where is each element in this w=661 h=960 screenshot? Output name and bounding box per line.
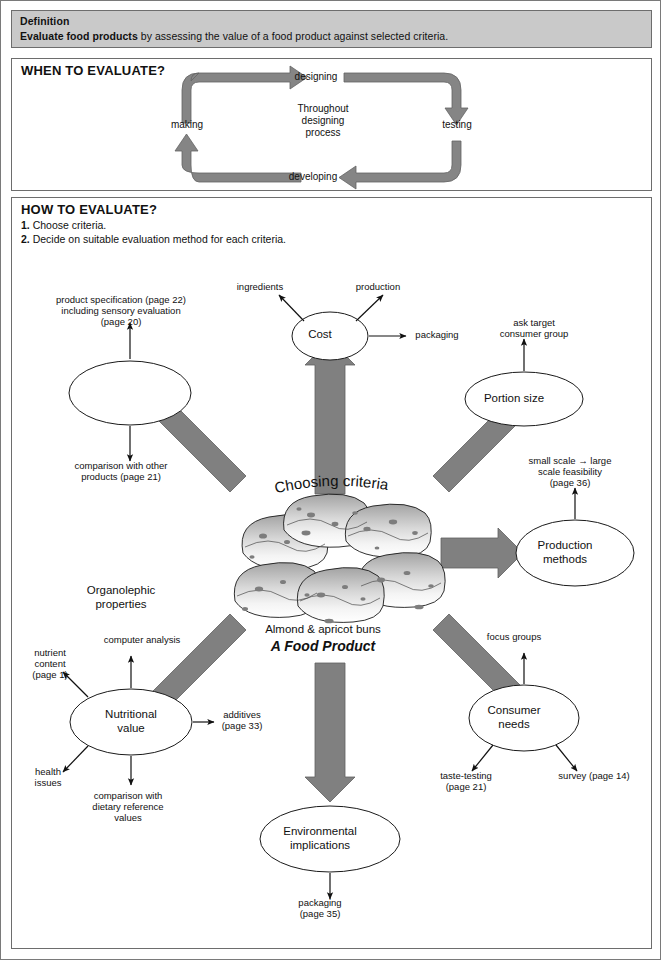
node-organolephic <box>69 361 191 425</box>
leaf-product-spec-line1: product specification (page 22) <box>56 294 186 305</box>
leaf-product-spec-line3: (page 20) <box>101 316 142 327</box>
leaf-computer-analysis: computer analysis <box>79 634 205 645</box>
leaf-line-taste-testing <box>472 745 493 771</box>
cycle-center-line-1: Throughout <box>278 103 368 115</box>
node-label-cost: Cost <box>280 328 360 342</box>
leaf-health-issues: health issues <box>20 766 76 788</box>
leaf-production-cost: production <box>337 281 419 292</box>
node-label-organolephic-line1: Organolephic <box>87 584 155 596</box>
leaf-dietary-line3: values <box>114 812 141 823</box>
food-product-illustration <box>234 494 445 623</box>
product-name-caption: Almond & apricot buns <box>235 622 411 636</box>
leaf-dietary-line1: comparison with <box>94 790 163 801</box>
leaf-comparison-line1: comparison with other <box>75 460 168 471</box>
bun-back-right <box>345 504 431 557</box>
leaf-ask-target-line1: ask target <box>513 317 555 328</box>
leaf-line-production-cost <box>356 295 383 321</box>
node-label-production-line2: methods <box>543 553 587 565</box>
leaf-survey: survey (page 14) <box>542 770 646 781</box>
leaf-ask-target-consumer-group: ask target consumer group <box>472 317 596 339</box>
leaf-taste-testing: taste-testing (page 21) <box>421 770 511 792</box>
node-label-organolephic: Organolephic properties <box>60 584 182 611</box>
leaf-product-specification: product specification (page 22) includin… <box>43 294 199 327</box>
leaf-ingredients: ingredients <box>217 281 303 292</box>
cycle-stage-developing: developing <box>273 171 353 183</box>
leaf-nutrient-line1: nutrient <box>34 647 66 658</box>
node-label-portion-size: Portion size <box>454 392 574 406</box>
node-label-nutritional-value: Nutritional value <box>70 708 192 735</box>
cycle-stage-making: making <box>159 119 215 131</box>
when-to-evaluate-title: WHEN TO EVALUATE? <box>21 63 165 78</box>
arrow-to-cost <box>305 340 355 494</box>
leaf-additives-line2: (page 33) <box>222 720 263 731</box>
leaf-product-spec-line2: including sensory evaluation <box>61 305 180 316</box>
node-label-nutritional-line1: Nutritional <box>105 708 157 720</box>
leaf-comparison-line2: products (page 21) <box>81 471 161 482</box>
definition-box: Definition Evaluate food products by ass… <box>11 10 652 48</box>
leaf-health-line1: health <box>35 766 61 777</box>
leaf-nutrient-content: nutrient content (page 1) <box>17 647 83 680</box>
leaf-taste-testing-line2: (page 21) <box>446 781 487 792</box>
node-label-environmental-line1: Environmental <box>283 825 357 837</box>
cycle-center-line-3: process <box>278 127 368 139</box>
node-label-organolephic-line2: properties <box>95 598 146 610</box>
leaf-dietary-line2: dietary reference <box>92 801 163 812</box>
leaf-focus-groups: focus groups <box>478 631 550 642</box>
leaf-packaging-env-line2: (page 35) <box>300 908 341 919</box>
definition-title: Definition <box>20 15 643 28</box>
product-tag-caption: A Food Product <box>250 639 396 654</box>
leaf-comparison-other-products: comparison with other products (page 21) <box>49 460 193 482</box>
cycle-stage-testing: testing <box>429 119 485 131</box>
leaf-feasibility-line3: (page 36) <box>550 477 591 488</box>
node-label-portion-size-line1: Portion size <box>484 392 544 404</box>
leaf-additives: additives (page 33) <box>209 709 275 731</box>
leaf-line-ingredients <box>279 295 304 321</box>
definition-lead: Evaluate food products <box>20 30 138 42</box>
cycle-stage-designing: designing <box>279 71 353 83</box>
node-label-environmental-line2: implications <box>290 839 350 851</box>
leaf-ask-target-line2: consumer group <box>500 328 569 339</box>
cycle-center-line-2: designing <box>278 115 368 127</box>
worksheet-page: Definition Evaluate food products by ass… <box>0 0 661 960</box>
node-label-production-methods: Production methods <box>505 539 625 566</box>
node-label-consumer-line1: Consumer <box>487 704 540 716</box>
leaf-packaging-environmental: packaging (page 35) <box>273 897 367 919</box>
leaf-packaging-cost: packaging <box>401 329 473 340</box>
definition-body: Evaluate food products by assessing the … <box>20 29 643 43</box>
node-label-cost-line1: Cost <box>308 328 332 340</box>
node-label-nutritional-line2: value <box>117 722 145 734</box>
node-label-production-line1: Production <box>538 539 593 551</box>
leaf-feasibility-line2: scale feasibility <box>538 466 602 477</box>
arrow-to-environmental <box>305 663 355 802</box>
bun-front-mid <box>297 568 384 623</box>
definition-rest: by assessing the value of a food product… <box>138 30 448 42</box>
node-label-consumer-needs: Consumer needs <box>459 704 569 731</box>
leaf-health-line2: issues <box>35 777 62 788</box>
leaf-feasibility-line1: small scale → large <box>529 455 612 466</box>
leaf-line-survey <box>556 745 577 771</box>
leaf-scale-feasibility: small scale → large scale feasibility (p… <box>505 455 635 488</box>
leaf-packaging-env-line1: packaging <box>298 897 341 908</box>
leaf-dietary-reference-values: comparison with dietary reference values <box>67 790 189 823</box>
leaf-nutrient-line2: content <box>34 658 65 669</box>
leaf-additives-line1: additives <box>223 709 261 720</box>
node-label-consumer-line2: needs <box>498 718 529 730</box>
node-label-environmental: Environmental implications <box>250 825 390 852</box>
leaf-nutrient-line3: (page 1) <box>32 669 67 680</box>
leaf-taste-testing-line1: taste-testing <box>440 770 492 781</box>
